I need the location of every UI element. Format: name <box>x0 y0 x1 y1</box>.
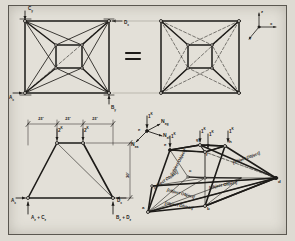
free-body-joint-label: e <box>138 128 140 132</box>
elevation-support-label-left: Az + Cz <box>31 216 46 222</box>
elevation-dim-1: 15' <box>38 117 44 121</box>
isometric-load-4: 1K <box>229 128 234 134</box>
elevation-dimension-line <box>26 120 115 145</box>
force-label-Neg: Neg <box>161 119 169 126</box>
isometric-load-3: 1K <box>209 131 214 137</box>
node-label-c: c <box>189 169 191 173</box>
equals-symbol <box>126 53 140 59</box>
reaction-label-Ax: Ax <box>9 96 14 102</box>
elevation-dim-3: 15' <box>92 117 98 121</box>
axis-label-z: z <box>261 10 263 14</box>
force-label-Nef: Nef <box>163 133 170 140</box>
elevation-load-2: 2K <box>84 127 89 133</box>
elevation-reaction-arrows <box>16 198 126 214</box>
axis-label-x: x <box>270 22 272 26</box>
reaction-label-Cy: Cy <box>28 7 33 13</box>
engineering-figure: z x y Cy Dx Ax By 15' 15' 15' 30' 2K 2K … <box>0 0 295 241</box>
node-label-e: e <box>164 143 166 147</box>
axis-label-y: y <box>249 36 251 40</box>
reaction-label-By: By <box>111 106 116 112</box>
elevation-geometry <box>27 142 115 200</box>
free-body-load-label: 1K <box>148 113 153 119</box>
node-label-f: f <box>206 153 207 157</box>
reaction-label-Dx: Dx <box>124 21 129 27</box>
elevation-dim-2: 15' <box>65 117 71 121</box>
node-label-g: g <box>196 138 199 142</box>
elevation-support-label-right: Bz + Dz <box>116 216 131 222</box>
node-label-a: a <box>142 206 144 210</box>
plan-right-outline <box>160 20 241 95</box>
elevation-reaction-Ax: Ax <box>11 199 16 205</box>
node-label-b: b <box>207 207 210 211</box>
elevation-reaction-Dx: Dx <box>117 199 122 205</box>
elevation-load-1: 2K <box>58 127 63 133</box>
node-label-d: d <box>278 180 281 184</box>
elevation-height-label: 30' <box>126 173 130 179</box>
isometric-load-2: 1K <box>201 128 206 134</box>
plan-left-outline <box>24 20 111 95</box>
force-label-Nea: Nea <box>131 142 138 149</box>
isometric-load-1: 1K <box>171 133 176 139</box>
node-label-h: h <box>229 140 232 144</box>
